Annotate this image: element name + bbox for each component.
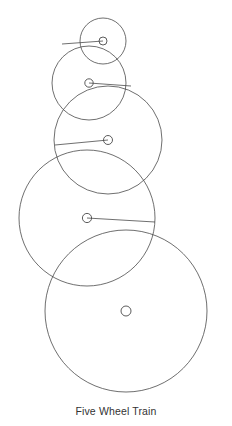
wheel-5-hub — [121, 306, 131, 316]
wheel-5-rim — [45, 230, 207, 392]
wheel-2-spoke — [89, 83, 131, 86]
wheel-3-group — [54, 86, 162, 194]
wheel-1-spoke — [62, 41, 103, 44]
figure-caption: Five Wheel Train — [0, 404, 232, 418]
wheel-train-drawing — [0, 0, 232, 426]
five-wheel-train-figure: Five Wheel Train — [0, 0, 232, 426]
wheel-5-group — [45, 230, 207, 392]
wheel-4-spoke — [87, 218, 155, 222]
wheel-4-group — [19, 150, 155, 286]
wheel-1-group — [62, 18, 126, 64]
wheel-3-spoke — [55, 140, 108, 145]
